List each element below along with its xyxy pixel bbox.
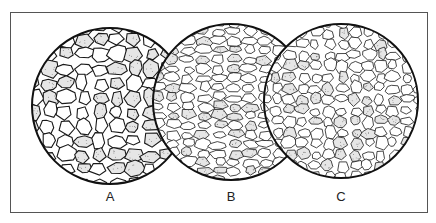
panel-label-a: A xyxy=(106,189,115,204)
panel-label-c: C xyxy=(336,189,345,204)
micrograph-figure xyxy=(0,0,436,223)
panel-label-b: B xyxy=(227,189,236,204)
